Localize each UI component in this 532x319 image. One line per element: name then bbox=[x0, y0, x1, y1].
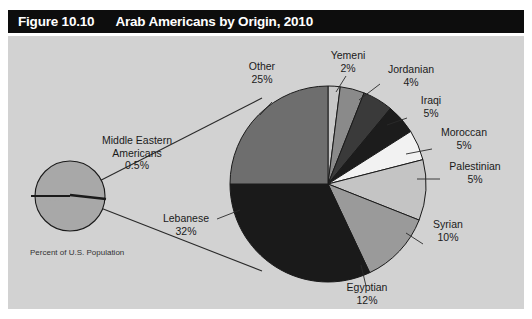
figure-number: Figure 10.10 bbox=[18, 14, 94, 29]
pie-label-yemeni-name: Yemeni bbox=[331, 49, 366, 61]
pie-label-lebanese-name: Lebanese bbox=[163, 212, 209, 224]
pie-label-jordanian-name: Jordanian bbox=[388, 63, 434, 75]
pie-label-moroccan-value: 5% bbox=[432, 139, 496, 152]
pie-label-palestinian-value: 5% bbox=[440, 173, 510, 186]
pie-label-syrian-value: 10% bbox=[422, 231, 474, 244]
small-circle-group bbox=[31, 161, 106, 231]
pie-label-palestinian-name: Palestinian bbox=[449, 160, 500, 172]
pie-label-other-value: 25% bbox=[232, 73, 292, 86]
page-title: Arab Americans by Origin, 2010 bbox=[115, 14, 313, 29]
pie-label-iraqi-name: Iraqi bbox=[421, 94, 441, 106]
small-circle-label: Middle Eastern Americans 0.5% bbox=[94, 134, 180, 172]
pie-slice-other bbox=[230, 86, 328, 184]
pie-label-egyptian-value: 12% bbox=[336, 294, 398, 307]
pie-label-moroccan-name: Moroccan bbox=[441, 126, 487, 138]
pie-label-yemeni: Yemeni 2% bbox=[320, 49, 376, 74]
small-circle-label-line2: Americans bbox=[94, 147, 180, 160]
pie-label-moroccan: Moroccan 5% bbox=[432, 126, 496, 151]
pie-slices bbox=[230, 86, 426, 282]
pie-label-iraqi-value: 5% bbox=[408, 107, 454, 120]
pie-label-egyptian: Egyptian 12% bbox=[336, 281, 398, 306]
pie-label-lebanese-value: 32% bbox=[154, 225, 218, 238]
pie-label-yemeni-value: 2% bbox=[320, 62, 376, 75]
small-circle-label-value: 0.5% bbox=[94, 159, 180, 172]
figure-container: Figure 10.10 Arab Americans by Origin, 2… bbox=[0, 0, 532, 319]
figure-title-bar: Figure 10.10 Arab Americans by Origin, 2… bbox=[8, 10, 524, 33]
pie-label-egyptian-name: Egyptian bbox=[347, 281, 388, 293]
pie-label-syrian: Syrian 10% bbox=[422, 218, 474, 243]
pie-label-other: Other 25% bbox=[232, 60, 292, 85]
small-circle-label-line1: Middle Eastern bbox=[102, 134, 172, 146]
pie-label-jordanian: Jordanian 4% bbox=[379, 63, 443, 88]
pie-label-other-name: Other bbox=[249, 60, 275, 72]
pie-label-palestinian: Palestinian 5% bbox=[440, 160, 510, 185]
pie-label-syrian-name: Syrian bbox=[433, 218, 463, 230]
pie-label-jordanian-value: 4% bbox=[379, 76, 443, 89]
chart-caption: Percent of U.S. Population bbox=[30, 248, 124, 257]
pie-label-iraqi: Iraqi 5% bbox=[408, 94, 454, 119]
pie-label-lebanese: Lebanese 32% bbox=[154, 212, 218, 237]
chart-panel: Other 25% Yemeni 2% Jordanian 4% Iraqi 5… bbox=[8, 36, 524, 309]
